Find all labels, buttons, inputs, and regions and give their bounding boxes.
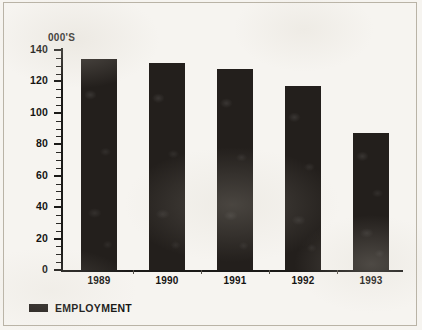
- x-tick-label-1991: 1991: [205, 275, 265, 286]
- y-tick-mark: [54, 80, 61, 82]
- y-axis-line: [61, 48, 63, 272]
- x-axis-separator-tick: [269, 270, 270, 274]
- legend-label-employment: EMPLOYMENT: [55, 302, 132, 314]
- y-tick-label: 100: [4, 106, 48, 118]
- y-tick-mark: [54, 206, 61, 208]
- y-tick-mark: [54, 112, 61, 114]
- bar-1989: [81, 59, 117, 270]
- x-tick-label-1989: 1989: [69, 275, 129, 286]
- x-tick-label-1990: 1990: [137, 275, 197, 286]
- legend-swatch-employment: [29, 304, 48, 312]
- x-axis-separator-tick: [337, 270, 338, 274]
- y-tick-label: 0: [4, 263, 48, 275]
- bar-1991: [217, 69, 253, 270]
- y-axis-unit-label: 000'S: [48, 32, 75, 43]
- bar-1993: [353, 133, 389, 270]
- x-axis-separator-tick: [133, 270, 134, 274]
- x-tick-label-1992: 1992: [273, 275, 333, 286]
- bar-1990: [149, 63, 185, 270]
- y-tick-label: 20: [4, 232, 48, 244]
- y-tick-mark: [54, 175, 61, 177]
- chart-frame: 000'S 020406080100120140 198919901991199…: [3, 2, 417, 326]
- x-axis-line: [61, 270, 403, 272]
- y-tick-label: 40: [4, 200, 48, 212]
- chart-legend: EMPLOYMENT: [29, 302, 132, 314]
- y-tick-mark: [54, 143, 61, 145]
- y-tick-mark: [54, 238, 61, 240]
- y-tick-label: 60: [4, 169, 48, 181]
- y-tick-label: 80: [4, 137, 48, 149]
- y-tick-mark: [54, 269, 61, 271]
- y-tick-label: 140: [4, 43, 48, 55]
- x-axis-separator-tick: [201, 270, 202, 274]
- bar-1992: [285, 86, 321, 270]
- x-tick-label-1993: 1993: [341, 275, 401, 286]
- y-tick-label: 120: [4, 74, 48, 86]
- y-tick-mark: [54, 49, 61, 51]
